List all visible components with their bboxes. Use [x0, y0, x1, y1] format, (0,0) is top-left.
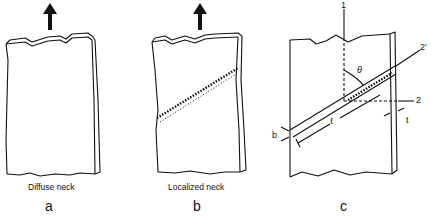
arrows — [43, 3, 207, 30]
axis-1-label: 1 — [341, 0, 346, 10]
panel-letter-b: b — [193, 198, 201, 214]
axis-2-label: 2 — [416, 95, 421, 105]
pull-arrow-b-icon — [193, 3, 207, 30]
panel-b-specimen — [152, 33, 246, 174]
axis-2prime-label: 2' — [420, 42, 427, 52]
theta-label: θ — [357, 65, 362, 75]
width-label: b — [272, 130, 277, 140]
length-label: ℓ — [330, 116, 333, 126]
thickness-label: t — [406, 115, 409, 125]
caption-a: Diffuse neck — [28, 182, 75, 192]
panel-letter-a: a — [45, 198, 53, 214]
necking-diagram: Diffuse neck a Localized neck b c 1 2 2'… — [0, 0, 438, 220]
panel-c-specimen — [281, 9, 420, 177]
caption-b: Localized neck — [168, 182, 224, 192]
panel-a-specimen — [6, 33, 100, 176]
pull-arrow-a-icon — [43, 3, 57, 30]
panel-letter-c: c — [340, 198, 347, 214]
